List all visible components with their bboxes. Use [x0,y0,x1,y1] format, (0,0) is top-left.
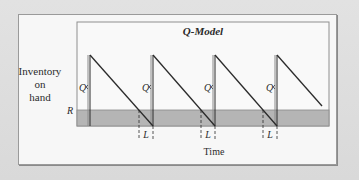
q-model-diagram: Q-Model Inventory on hand R Q Q Q Q [0,0,359,180]
y-axis-label-line-3: hand [29,91,51,103]
q-label-1: Q [79,82,87,93]
y-axis-label-line-2: on [35,78,47,90]
reorder-point-label: R [66,105,73,116]
q-label-4: Q [266,82,274,93]
diagram-title: Q-Model [183,25,224,37]
lead-time-label-3: L [266,129,273,140]
y-axis-label-line-1: Inventory [19,65,62,77]
q-label-3: Q [204,82,212,93]
lead-time-label-2: L [204,129,211,140]
x-axis-label: Time [204,146,225,157]
lead-time-label-1: L [142,129,149,140]
q-label-2: Q [142,82,150,93]
